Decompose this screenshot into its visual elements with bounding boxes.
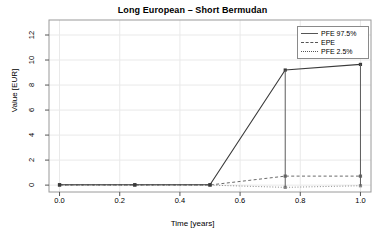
- legend-line-solid-icon: [301, 30, 318, 38]
- chart-container: Long European – Short Bermudan Value [EU…: [0, 0, 385, 242]
- y-axis-label: Value [EUR]: [10, 51, 19, 131]
- legend-label-pfe-975: PFE 97.5%: [321, 29, 356, 38]
- y-tick-label: 10: [24, 52, 40, 68]
- legend-item-pfe-25: PFE 2.5%: [301, 47, 365, 56]
- chart-legend: PFE 97.5% EPE PFE 2.5%: [297, 26, 369, 59]
- legend-item-epe: EPE: [301, 38, 365, 47]
- x-tick-label: 0.8: [285, 196, 315, 205]
- y-tick-label: 8: [24, 77, 40, 93]
- x-axis-label: Time [years]: [0, 219, 385, 228]
- y-tick-label: 2: [24, 152, 40, 168]
- x-tick-label: 0.0: [45, 196, 75, 205]
- legend-item-pfe-975: PFE 97.5%: [301, 29, 365, 38]
- y-tick-label: 6: [24, 102, 40, 118]
- x-tick-label: 0.2: [105, 196, 135, 205]
- legend-line-dotted-icon: [301, 48, 318, 56]
- x-tick-label: 0.4: [165, 196, 195, 205]
- x-tick-label: 0.6: [225, 196, 255, 205]
- y-tick-label: 0: [24, 177, 40, 193]
- legend-label-pfe-25: PFE 2.5%: [321, 47, 353, 56]
- y-axis-label-wrap: Value [EUR]: [6, 50, 18, 140]
- legend-label-epe: EPE: [321, 38, 335, 47]
- y-tick-label: 12: [24, 27, 40, 43]
- x-tick-label: 1.0: [345, 196, 375, 205]
- legend-line-dashed-icon: [301, 39, 318, 47]
- y-tick-label: 4: [24, 127, 40, 143]
